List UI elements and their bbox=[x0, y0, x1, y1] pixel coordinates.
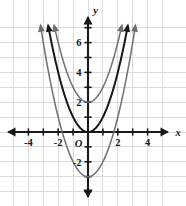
x-axis-name-label: x bbox=[174, 127, 180, 138]
x-tick-label: -2 bbox=[54, 137, 63, 148]
coordinate-plane-svg: -4-224642-2Oxy bbox=[0, 0, 186, 206]
y-tick-label: 6 bbox=[76, 37, 81, 48]
origin-label: O bbox=[75, 138, 83, 149]
y-axis-arrow-up bbox=[83, 16, 92, 25]
x-tick-label: -4 bbox=[24, 137, 33, 148]
y-tick-label: -2 bbox=[73, 157, 82, 168]
x-axis-arrow-right bbox=[161, 127, 170, 136]
x-tick-label: 4 bbox=[145, 137, 151, 148]
axes-layer bbox=[7, 16, 169, 198]
y-axis-name-label: y bbox=[91, 5, 98, 16]
parabola-graph-figure: -4-224642-2Oxy bbox=[0, 0, 186, 206]
x-axis-arrow-left bbox=[7, 127, 16, 136]
x-tick-label: 2 bbox=[115, 137, 120, 148]
y-axis-arrow-down bbox=[83, 190, 92, 199]
y-tick-label: 4 bbox=[76, 67, 82, 78]
y-tick-label: 2 bbox=[76, 97, 81, 108]
